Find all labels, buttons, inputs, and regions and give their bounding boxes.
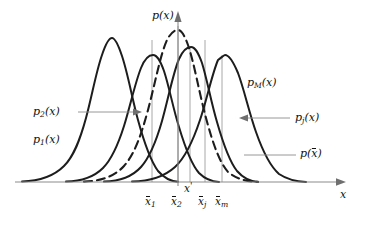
curve-label-p1-arg: (x) (45, 133, 60, 146)
curve-label-pxbar: p(x) (300, 148, 322, 159)
overbar-glyph (146, 196, 150, 197)
tick-label-xbarm-sub: m (221, 200, 228, 209)
overbar-glyph (216, 196, 220, 197)
curve-label-p1-sub: 1 (40, 138, 45, 147)
interior-label-xprime: x' (184, 183, 192, 194)
x-axis-label-text: x (340, 188, 346, 201)
curve-label-pxbar-main: p (300, 147, 307, 160)
tick-label-xbar2: x2 (171, 196, 182, 207)
curve-label-pxbar-close: ) (318, 147, 322, 160)
leader-arrowhead-pj (239, 115, 248, 122)
curve-label-pM: pM(x) (247, 77, 277, 88)
curve-label-pxbar-xbar: x (311, 148, 317, 159)
curve-label-p2-main: p (33, 105, 40, 118)
tick-label-xbarm: xm (215, 196, 228, 207)
tick-label-xbar2-sub: 2 (177, 200, 182, 209)
overbar-glyph (172, 196, 176, 197)
curve-label-pj-main: p (295, 111, 302, 124)
y-axis-label: p(x) (152, 10, 174, 21)
overbar-glyph (312, 148, 317, 149)
y-axis-label-text: p(x) (152, 9, 174, 22)
overbar-glyph (199, 196, 203, 197)
curve-label-pM-arg: (x) (262, 76, 277, 89)
curve-label-pj-arg: (x) (304, 111, 319, 124)
curve-label-p2-sub: 2 (40, 110, 45, 119)
figure-container: p(x) x p2(x) p1(x) pM(x) pj(x) p(x) x' x… (0, 0, 368, 225)
interior-label-xprime-mark: ' (190, 181, 192, 191)
curve-label-pM-sub: M (254, 81, 262, 90)
curve-label-p2-arg: (x) (45, 105, 60, 118)
x-axis-label: x (340, 189, 346, 200)
tick-label-xbarj: xj (198, 196, 206, 207)
curve-label-pj: pj(x) (295, 112, 319, 123)
tick-label-xbar1-sub: 1 (151, 200, 156, 209)
tick-label-xbarj-sub: j (204, 200, 206, 209)
y-axis-arrowhead (174, 11, 181, 22)
curve-label-p2: p2(x) (33, 106, 60, 117)
tick-label-xbar1: x1 (145, 196, 156, 207)
curve-label-p1-main: p (33, 133, 40, 146)
curve-label-p1: p1(x) (33, 134, 60, 145)
curve-label-pM-main: p (247, 76, 254, 89)
x-axis-arrowhead (336, 178, 346, 185)
density-curve-group (22, 30, 306, 182)
